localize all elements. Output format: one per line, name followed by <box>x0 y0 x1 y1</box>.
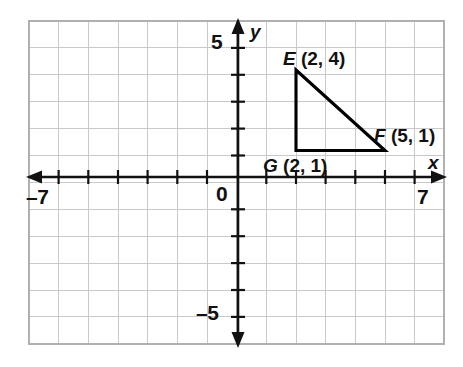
x-axis-tick-label-7: 7 <box>417 186 428 207</box>
coordinate-plane-figure: 5 –5 –7 7 0 y x E (2, 4) F (5, 1) G (2, … <box>0 0 463 367</box>
x-axis-label: x <box>428 153 439 172</box>
y-axis-arrow-down <box>232 332 245 348</box>
point-letter-E: E <box>283 48 296 69</box>
point-label-G: G (2, 1) <box>263 156 327 175</box>
y-axis-tick-label-neg5: –5 <box>196 302 218 323</box>
origin-label: 0 <box>216 183 227 204</box>
point-label-E: E (2, 4) <box>283 49 345 68</box>
point-coords-G: (2, 1) <box>278 155 328 176</box>
point-letter-G: G <box>263 155 278 176</box>
grid-lines <box>29 21 444 344</box>
coordinate-plane-svg <box>0 0 463 367</box>
triangle-EFG <box>296 70 385 151</box>
point-coords-F: (5, 1) <box>386 125 436 146</box>
point-coords-E: (2, 4) <box>296 48 346 69</box>
x-axis-tick-label-neg7: –7 <box>26 186 48 207</box>
y-axis-label: y <box>250 22 261 41</box>
y-axis-tick-label-5: 5 <box>211 31 222 52</box>
point-letter-F: F <box>374 125 386 146</box>
point-label-F: F (5, 1) <box>374 126 435 145</box>
